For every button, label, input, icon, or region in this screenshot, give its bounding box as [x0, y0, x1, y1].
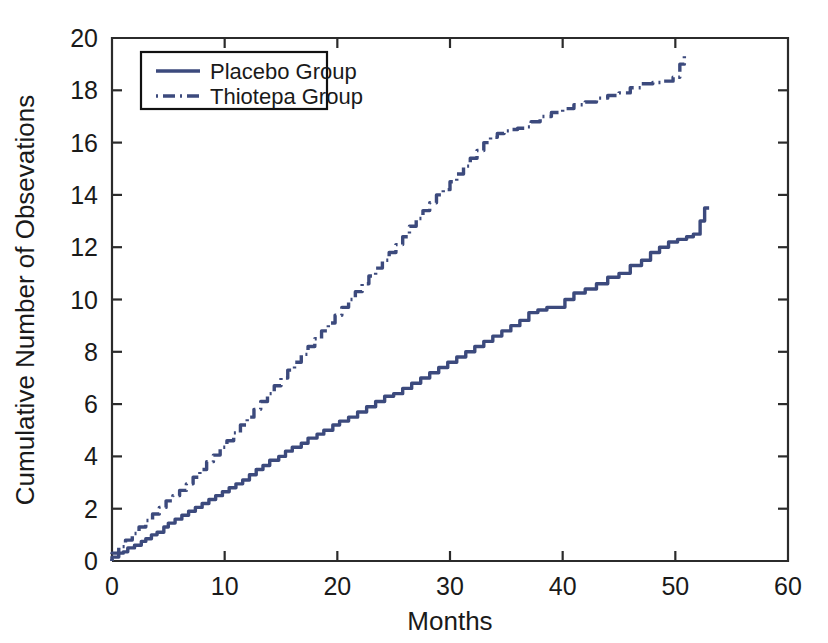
x-tick-label: 10	[211, 572, 239, 600]
y-tick-label: 0	[84, 547, 98, 575]
x-tick-label: 20	[323, 572, 351, 600]
data-series-group	[112, 55, 709, 561]
x-tick-label: 30	[436, 572, 464, 600]
y-tick-label: 20	[70, 24, 98, 52]
legend-label-thiotepa: Thiotepa Group	[210, 84, 363, 109]
series-line-placebo	[112, 208, 709, 561]
x-tick-label: 0	[105, 572, 119, 600]
y-axis-title: Cumulative Number of Obsevations	[10, 95, 40, 505]
x-axis-tick-labels: 0102030405060	[105, 572, 802, 600]
chart-figure: 0102030405060 02468101214161820 Months C…	[0, 0, 828, 643]
chart-legend[interactable]: Placebo Group Thiotepa Group	[141, 52, 363, 109]
y-tick-label: 6	[84, 390, 98, 418]
y-tick-label: 10	[70, 286, 98, 314]
x-tick-label: 40	[549, 572, 577, 600]
y-tick-label: 16	[70, 129, 98, 157]
y-axis-tick-labels: 02468101214161820	[70, 24, 98, 575]
chart-canvas: 0102030405060 02468101214161820 Months C…	[0, 0, 828, 643]
x-axis-ticks	[225, 38, 676, 561]
legend-label-placebo: Placebo Group	[210, 59, 357, 84]
y-tick-label: 12	[70, 233, 98, 261]
series-line-thiotepa	[112, 55, 687, 561]
x-axis-title: Months	[407, 606, 492, 636]
y-axis-ticks	[112, 90, 788, 508]
y-tick-label: 18	[70, 76, 98, 104]
y-tick-label: 8	[84, 338, 98, 366]
y-tick-label: 2	[84, 495, 98, 523]
plot-frame	[112, 38, 788, 561]
x-tick-label: 60	[774, 572, 802, 600]
y-tick-label: 14	[70, 181, 98, 209]
x-tick-label: 50	[661, 572, 689, 600]
y-tick-label: 4	[84, 442, 98, 470]
